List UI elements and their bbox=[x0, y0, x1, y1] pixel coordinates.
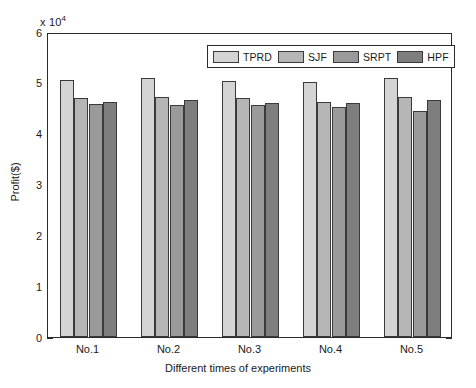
bar-hpf-no1 bbox=[103, 102, 117, 337]
plot-area bbox=[47, 33, 452, 338]
bar-tprd-no1 bbox=[60, 80, 74, 337]
y-tick-label: 0 bbox=[36, 333, 42, 344]
y-axis-title: Profit($) bbox=[9, 132, 21, 232]
bars-layer bbox=[48, 34, 451, 337]
chart-legend: TPRDSJFSRPTHPF bbox=[207, 45, 455, 68]
y-tick-mark bbox=[47, 338, 53, 339]
y-axis-multiplier-exponent: 4 bbox=[62, 14, 67, 23]
x-tick-label: No.4 bbox=[319, 343, 342, 355]
bar-srpt-no1 bbox=[89, 104, 103, 337]
bar-sjf-no1 bbox=[74, 98, 88, 337]
bar-srpt-no4 bbox=[332, 107, 346, 337]
legend-label-hpf: HPF bbox=[427, 51, 448, 63]
bar-srpt-no5 bbox=[413, 111, 427, 337]
legend-entry-srpt: SRPT bbox=[333, 51, 391, 63]
bar-srpt-no3 bbox=[251, 105, 265, 337]
y-tick-label: 1 bbox=[36, 282, 42, 293]
y-tick-label: 6 bbox=[36, 28, 42, 39]
legend-swatch-srpt bbox=[333, 51, 359, 63]
y-axis-multiplier-base: x 10 bbox=[40, 16, 62, 28]
x-tick-label: No.3 bbox=[238, 343, 261, 355]
x-tick-label: No.2 bbox=[157, 343, 180, 355]
bar-sjf-no2 bbox=[155, 97, 169, 337]
bar-tprd-no4 bbox=[303, 82, 317, 337]
y-axis-multiplier-label: x 104 bbox=[40, 14, 66, 28]
legend-swatch-hpf bbox=[397, 51, 423, 63]
y-tick-mark-right bbox=[446, 338, 452, 339]
bar-tprd-no2 bbox=[141, 78, 155, 337]
bar-tprd-no3 bbox=[222, 81, 236, 337]
legend-entry-sjf: SJF bbox=[278, 51, 327, 63]
x-axis-title: Different times of experiments bbox=[0, 362, 476, 374]
y-tick-label: 4 bbox=[36, 129, 42, 140]
bar-hpf-no3 bbox=[265, 103, 279, 337]
y-tick-label: 2 bbox=[36, 231, 42, 242]
legend-label-tprd: TPRD bbox=[243, 51, 272, 63]
bar-sjf-no3 bbox=[236, 98, 250, 337]
bar-sjf-no5 bbox=[398, 97, 412, 337]
bar-hpf-no2 bbox=[184, 100, 198, 337]
legend-label-sjf: SJF bbox=[308, 51, 327, 63]
y-tick-label: 5 bbox=[36, 78, 42, 89]
y-tick-label: 3 bbox=[36, 180, 42, 191]
legend-label-srpt: SRPT bbox=[363, 51, 391, 63]
bar-sjf-no4 bbox=[317, 102, 331, 337]
figure-canvas: x 104 0123456No.1No.2No.3No.4No.5 TPRDSJ… bbox=[0, 0, 476, 388]
bar-tprd-no5 bbox=[384, 78, 398, 337]
bar-srpt-no2 bbox=[170, 105, 184, 337]
x-tick-label: No.5 bbox=[400, 343, 423, 355]
bar-hpf-no4 bbox=[346, 103, 360, 337]
x-tick-label: No.1 bbox=[76, 343, 99, 355]
legend-entry-tprd: TPRD bbox=[213, 51, 272, 63]
bar-hpf-no5 bbox=[427, 100, 441, 337]
legend-swatch-tprd bbox=[213, 51, 239, 63]
legend-swatch-sjf bbox=[278, 51, 304, 63]
legend-entry-hpf: HPF bbox=[397, 51, 448, 63]
